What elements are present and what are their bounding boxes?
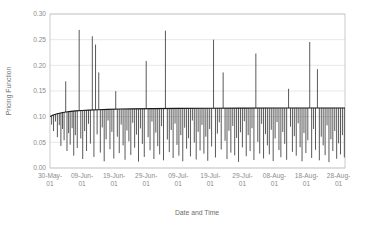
x-tick-label-year: 01 <box>46 180 54 187</box>
x-tick-label: 28-Aug- <box>327 172 350 180</box>
x-tick-label: 29-Jul- <box>232 172 252 179</box>
x-tick-label-year: 01 <box>303 180 311 187</box>
y-tick-label: 0.25 <box>33 36 46 43</box>
x-tick-label: 30-May- <box>38 172 62 180</box>
chart-canvas: 0.000.050.100.150.200.250.30 30-May-0109… <box>0 0 366 225</box>
x-tick-label-year: 01 <box>78 180 86 187</box>
x-tick-label-year: 01 <box>143 180 151 187</box>
x-tick-label: 29-Jun- <box>135 172 157 179</box>
x-tick-label: 09-Jul- <box>168 172 188 179</box>
x-tick-label: 18-Aug- <box>295 172 318 180</box>
y-tick-label: 0.15 <box>33 87 46 94</box>
x-tick-label-year: 01 <box>175 180 183 187</box>
x-tick-label: 19-Jun- <box>103 172 125 179</box>
x-tick-label: 09-Jun- <box>71 172 93 179</box>
x-tick-label-year: 01 <box>239 180 247 187</box>
y-tick-label: 0.05 <box>33 139 46 146</box>
x-axis-title: Date and Time <box>175 209 219 216</box>
x-tick-label: 19-Jul- <box>200 172 220 179</box>
pricing-function-chart: 0.000.050.100.150.200.250.30 30-May-0109… <box>0 0 366 225</box>
y-tick-label: 0.10 <box>33 113 46 120</box>
x-tick-label-year: 01 <box>335 180 343 187</box>
y-tick-label: 0.00 <box>33 164 46 171</box>
x-tick-label-year: 01 <box>207 180 215 187</box>
x-tick-label-year: 01 <box>271 180 279 187</box>
x-tick-label-year: 01 <box>110 180 118 187</box>
y-tick-label: 0.20 <box>33 62 46 69</box>
x-tick-label: 08-Aug- <box>263 172 286 180</box>
y-tick-label: 0.30 <box>33 10 46 17</box>
y-axis-title: Pricing Function <box>5 66 13 115</box>
